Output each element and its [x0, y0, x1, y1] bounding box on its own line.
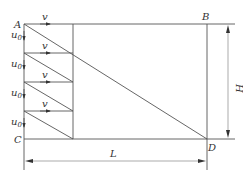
v-label-3: v [42, 69, 48, 80]
diagonal-a-d [24, 24, 207, 139]
u0-labels: u0 u0 u0 u0 [11, 29, 22, 129]
point-c-label: C [14, 134, 22, 145]
v-label-2: v [42, 40, 48, 51]
flow-diagram: v v v v u0 u0 u0 u0 A B C D H L [0, 0, 243, 180]
u0-label-3: u0 [11, 87, 22, 100]
height-dimension: H [226, 25, 243, 138]
u0-label-2: u0 [11, 58, 22, 71]
length-dimension: L [25, 148, 206, 163]
point-b-label: B [201, 11, 209, 22]
rectangle-abdc [24, 24, 235, 170]
u0-label-1: u0 [11, 29, 22, 42]
v-label-1: v [42, 11, 48, 22]
height-label: H [234, 83, 243, 93]
length-label: L [109, 148, 117, 159]
u0-label-4: u0 [11, 116, 22, 129]
v-label-4: v [42, 98, 48, 109]
point-a-label: A [13, 19, 21, 30]
point-d-label: D [207, 142, 216, 153]
short-diagonals [24, 53, 73, 139]
